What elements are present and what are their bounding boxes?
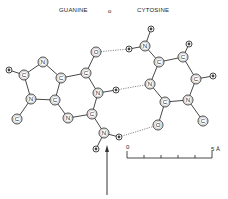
atom-n: N xyxy=(145,79,155,89)
svg-text:N: N xyxy=(186,97,190,103)
title-cytosine: CYTOSINE xyxy=(137,7,169,13)
pointer-arrow xyxy=(105,145,109,195)
atom-c: C xyxy=(198,116,208,126)
atom-h xyxy=(6,67,12,73)
scale-start-label: 0 xyxy=(126,144,129,150)
title-guanine: GUANINE xyxy=(59,7,88,13)
svg-text:C: C xyxy=(15,116,20,122)
atom-n: N xyxy=(183,95,193,105)
title-separator: o xyxy=(108,8,112,14)
svg-text:O: O xyxy=(156,122,161,128)
atom-c: C xyxy=(50,95,60,105)
atom-h xyxy=(126,46,132,52)
svg-text:C: C xyxy=(157,59,162,65)
svg-text:C: C xyxy=(181,54,186,60)
atom-c: C xyxy=(56,73,66,83)
atom-h xyxy=(148,26,154,32)
atom-c: C xyxy=(178,52,188,62)
svg-text:C: C xyxy=(22,72,27,78)
atom-c: C xyxy=(19,70,29,80)
svg-text:N: N xyxy=(66,115,70,121)
svg-text:N: N xyxy=(96,90,100,96)
atom-h xyxy=(116,134,122,140)
atom-h xyxy=(93,146,99,152)
svg-text:C: C xyxy=(201,118,206,124)
svg-text:O: O xyxy=(94,49,99,55)
atom-n: N xyxy=(99,128,109,138)
atom-n: N xyxy=(63,113,73,123)
svg-text:C: C xyxy=(84,70,89,76)
svg-text:N: N xyxy=(148,81,152,87)
svg-text:C: C xyxy=(194,76,199,82)
atoms: CNCCONCNNCNCNCCCNCCON xyxy=(6,26,216,152)
atom-n: N xyxy=(26,94,36,104)
scale-end-label: 5 Å xyxy=(211,146,220,152)
hydrogen-bonds xyxy=(96,49,158,137)
svg-text:C: C xyxy=(90,111,95,117)
atom-c: C xyxy=(81,68,91,78)
svg-text:N: N xyxy=(29,96,33,102)
atom-c: C xyxy=(191,74,201,84)
molecule-canvas: CNCCONCNNCNCNCCCNCCON xyxy=(0,0,228,199)
atom-h xyxy=(210,73,216,79)
svg-text:C: C xyxy=(59,75,64,81)
guanine-cytosine-base-pair-diagram: CNCCONCNNCNCNCCCNCCON GUANINE o CYTOSINE… xyxy=(0,0,228,199)
atom-n: N xyxy=(93,88,103,98)
atom-c: C xyxy=(87,109,97,119)
svg-text:N: N xyxy=(102,130,106,136)
hydrogen-bond xyxy=(119,125,158,137)
atom-c: C xyxy=(160,97,170,107)
scale-bar xyxy=(127,151,212,158)
atom-n: N xyxy=(38,57,48,67)
arrow-head-icon xyxy=(105,145,109,152)
atom-n: N xyxy=(140,41,150,51)
svg-text:N: N xyxy=(41,59,45,65)
atom-h xyxy=(113,87,119,93)
atom-o: O xyxy=(91,47,101,57)
atom-h xyxy=(186,41,192,47)
atom-c: C xyxy=(154,57,164,67)
covalent-bonds xyxy=(9,29,213,149)
atom-o: O xyxy=(153,120,163,130)
svg-text:N: N xyxy=(143,43,147,49)
svg-text:C: C xyxy=(163,99,168,105)
svg-text:C: C xyxy=(53,97,58,103)
atom-c: C xyxy=(12,114,22,124)
